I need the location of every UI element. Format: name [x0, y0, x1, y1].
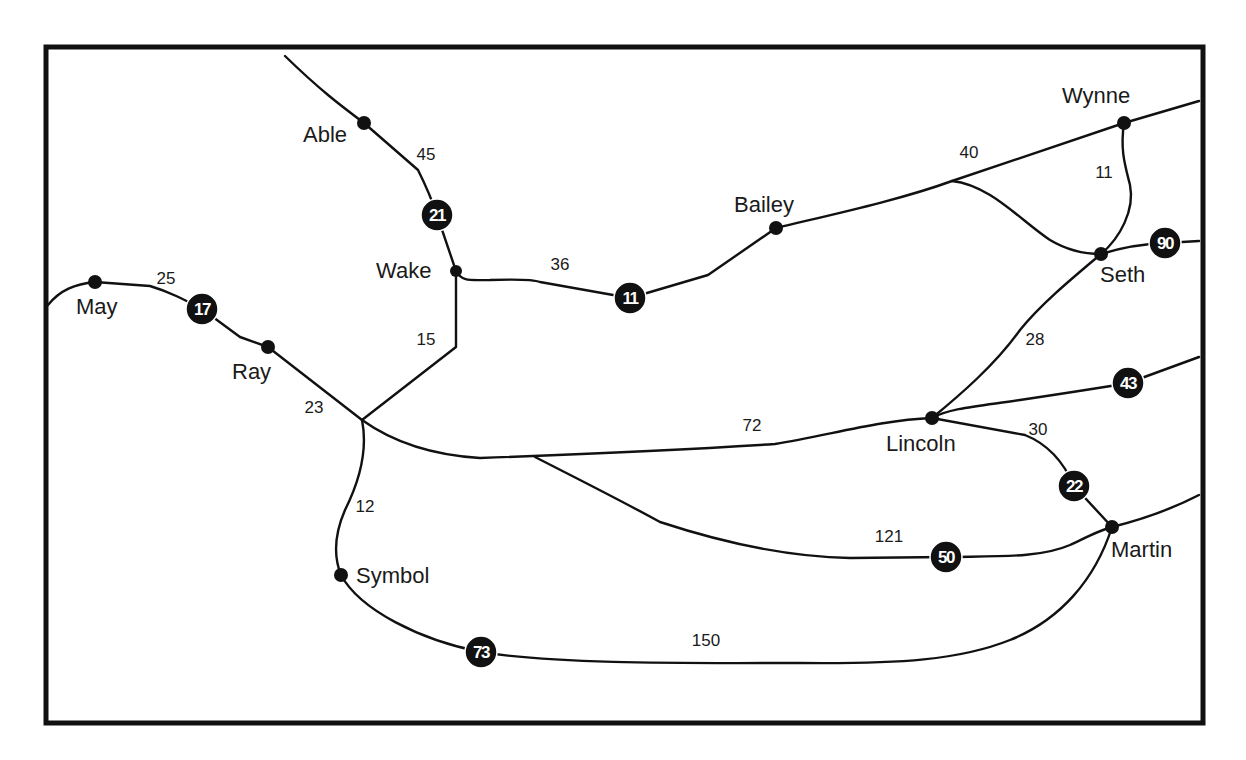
- town-seth[interactable]: Seth: [1094, 247, 1145, 287]
- town-marker-icon: [334, 568, 348, 582]
- distance-label: 150: [692, 631, 720, 650]
- town-label: Wynne: [1062, 83, 1130, 108]
- road-wake-bailey: [456, 228, 776, 298]
- route-number: 22: [1066, 477, 1083, 496]
- town-label: Wake: [376, 258, 431, 283]
- roads: [48, 56, 1199, 663]
- town-bailey[interactable]: Bailey: [734, 192, 794, 235]
- town-label: Bailey: [734, 192, 794, 217]
- route-number: 73: [473, 643, 490, 662]
- road-map: Able Wake May Ray Bailey Wynne Seth Lin: [0, 0, 1246, 760]
- route-shield-22[interactable]: 22: [1058, 470, 1090, 502]
- town-label: Symbol: [356, 563, 429, 588]
- road-symbol-martin: [341, 527, 1112, 663]
- route-number: 43: [1120, 374, 1137, 393]
- road-junction-lincoln: [362, 418, 932, 458]
- route-number: 11: [623, 289, 639, 308]
- town-wynne[interactable]: Wynne: [1062, 83, 1131, 130]
- town-marker-icon: [88, 275, 102, 289]
- town-marker-icon: [1117, 116, 1131, 130]
- road-bailey-wynne: [776, 101, 1199, 228]
- road-wake-junction: [362, 271, 456, 420]
- towns: Able Wake May Ray Bailey Wynne Seth Lin: [76, 83, 1172, 588]
- road-lincoln-martin: [932, 418, 1112, 527]
- map-frame: [46, 47, 1203, 723]
- town-ray[interactable]: Ray: [232, 340, 275, 384]
- route-shield-90[interactable]: 90: [1149, 227, 1181, 259]
- distance-label: 28: [1026, 330, 1045, 349]
- route-shield-21[interactable]: 21: [421, 199, 453, 231]
- town-marker-icon: [450, 265, 462, 277]
- route-shield-50[interactable]: 50: [930, 541, 962, 573]
- route-number: 50: [938, 548, 955, 567]
- town-wake[interactable]: Wake: [376, 258, 462, 283]
- distance-label: 36: [551, 255, 570, 274]
- town-label: Lincoln: [886, 431, 956, 456]
- town-martin[interactable]: Martin: [1105, 520, 1172, 562]
- road-lincoln-43: [932, 357, 1199, 418]
- town-able[interactable]: Able: [303, 116, 371, 147]
- distance-label: 121: [875, 527, 903, 546]
- distance-label: 40: [960, 143, 979, 162]
- town-marker-icon: [357, 116, 371, 130]
- town-marker-icon: [1105, 520, 1119, 534]
- distance-label: 15: [417, 330, 436, 349]
- distance-labels: 45 25 36 40 11 15 23 28 72 30 12 121 150: [157, 143, 1113, 650]
- road-junction-seth: [952, 181, 1101, 254]
- route-number: 17: [194, 300, 211, 319]
- distance-label: 30: [1029, 420, 1048, 439]
- town-marker-icon: [925, 411, 939, 425]
- distance-label: 12: [356, 497, 375, 516]
- road-seth-lincoln: [932, 254, 1101, 418]
- route-shield-11[interactable]: 11: [614, 282, 646, 314]
- town-marker-icon: [261, 340, 275, 354]
- road-branch-martin: [535, 457, 1112, 558]
- distance-label: 72: [743, 416, 762, 435]
- road-martin-east: [1112, 495, 1199, 527]
- route-number: 21: [429, 206, 446, 225]
- route-number: 90: [1157, 234, 1174, 253]
- town-marker-icon: [1094, 247, 1108, 261]
- route-shield-73[interactable]: 73: [465, 636, 497, 668]
- distance-label: 25: [157, 269, 176, 288]
- route-shield-43[interactable]: 43: [1112, 367, 1144, 399]
- distance-label: 23: [305, 398, 324, 417]
- town-may[interactable]: May: [76, 275, 118, 319]
- town-label: Ray: [232, 359, 271, 384]
- distance-label: 45: [417, 145, 436, 164]
- route-shield-17[interactable]: 17: [186, 293, 218, 325]
- town-marker-icon: [769, 221, 783, 235]
- distance-label: 11: [1095, 163, 1113, 182]
- town-label: Martin: [1111, 537, 1172, 562]
- road-wynne-seth: [1101, 123, 1131, 254]
- town-label: Able: [303, 122, 347, 147]
- town-label: Seth: [1100, 262, 1145, 287]
- town-label: May: [76, 294, 118, 319]
